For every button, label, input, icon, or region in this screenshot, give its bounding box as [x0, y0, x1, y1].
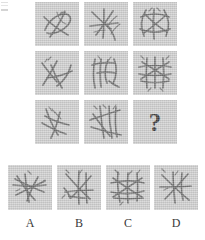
question-mark-icon: ?: [133, 100, 177, 144]
stick-figure-cluster-icon: [35, 51, 79, 95]
matrix-cell-r1c3[interactable]: [133, 2, 177, 46]
stick-figure-cluster-icon: [133, 2, 177, 46]
stick-figure-cluster-icon: [35, 2, 79, 46]
answer-label-d: D: [154, 216, 198, 231]
answer-label-a: A: [8, 216, 52, 231]
answer-option-b[interactable]: [57, 165, 101, 210]
stick-figure-cluster-icon: [154, 165, 198, 209]
matrix-cell-r3c3-missing[interactable]: ?: [133, 100, 177, 144]
answer-label-c: C: [106, 216, 150, 231]
matrix-cell-r2c1[interactable]: [35, 51, 79, 95]
matrix-cell-r1c2[interactable]: [84, 2, 128, 46]
matrix-reasoning-page: ?: [0, 0, 205, 240]
matrix-cell-r3c1[interactable]: [35, 100, 79, 144]
stick-figure-cluster-icon: [35, 100, 79, 144]
answer-option-c[interactable]: [106, 165, 150, 210]
matrix-cell-r3c2[interactable]: [84, 100, 128, 144]
matrix-cell-r1c1[interactable]: [35, 2, 79, 46]
stick-figure-cluster-icon: [133, 51, 177, 95]
stick-figure-cluster-icon: [8, 165, 52, 209]
stick-figure-cluster-icon: [57, 165, 101, 209]
stick-figure-cluster-icon: [106, 165, 150, 209]
answer-label-b: B: [57, 216, 101, 231]
stick-figure-cluster-icon: [84, 2, 128, 46]
scan-artifact: [1, 2, 8, 13]
stick-figure-cluster-icon: [84, 51, 128, 95]
answer-option-labels: A B C D: [8, 216, 200, 234]
matrix-grid: ?: [35, 2, 177, 144]
stick-figure-cluster-icon: [84, 100, 128, 144]
answer-option-d[interactable]: [154, 165, 198, 210]
matrix-cell-r2c2[interactable]: [84, 51, 128, 95]
answer-options: [8, 165, 200, 211]
answer-option-a[interactable]: [8, 165, 52, 210]
matrix-cell-r2c3[interactable]: [133, 51, 177, 95]
